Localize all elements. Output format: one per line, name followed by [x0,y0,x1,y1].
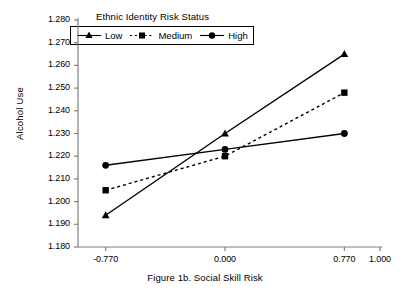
y-tick-label: 1.210 [30,173,70,183]
y-tick-label: 1.180 [30,241,70,251]
data-point-medium [102,187,108,193]
data-point-medium [341,89,347,95]
data-point-medium [222,153,228,159]
x-tick-label: 1.000 [350,254,410,264]
y-tick-label: 1.250 [30,82,70,92]
y-tick-label: 1.280 [30,14,70,24]
data-point-low [221,130,229,137]
y-tick-label: 1.270 [30,37,70,47]
y-tick-label: 1.230 [30,128,70,138]
data-point-high [222,146,229,153]
data-point-low [340,50,348,57]
y-tick-label: 1.240 [30,105,70,115]
series-line-medium [106,93,345,191]
x-tick-label: 0.000 [195,254,255,264]
y-tick-label: 1.190 [30,218,70,228]
y-tick-label: 1.260 [30,59,70,69]
y-tick-label: 1.200 [30,196,70,206]
figure-caption: Figure 1b. Social Skill Risk [0,272,410,283]
data-point-low [102,211,110,218]
data-point-high [341,130,348,137]
y-tick-label: 1.220 [30,150,70,160]
x-tick-label: -0.770 [76,254,136,264]
data-point-high [102,162,109,169]
figure-container: Alcohol Use Ethnic Identity Risk Status … [0,0,410,297]
